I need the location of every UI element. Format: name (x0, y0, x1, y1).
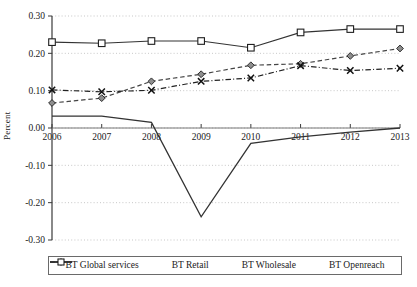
y-axis-tick-label: 0.20 (28, 49, 45, 59)
axis-lines (52, 16, 400, 240)
data-point-marker (397, 26, 404, 33)
x-axis-tick-label: 2007 (92, 132, 111, 142)
data-point-marker (198, 78, 204, 84)
data-point-marker (247, 62, 254, 69)
legend-swatch-solid-square (49, 257, 73, 267)
series-bt-wholesale (49, 62, 403, 95)
legend-label-bt-openreach: BT Openreach (329, 261, 384, 271)
data-point-marker (198, 38, 205, 45)
data-point-marker (198, 71, 205, 78)
series-bt-openreach (49, 26, 404, 51)
data-point-marker (397, 45, 404, 52)
y-axis-tick-label: 0.30 (28, 11, 45, 21)
y-axis-tick-label: -0.10 (25, 161, 45, 171)
data-series-group (49, 26, 404, 217)
data-point-marker (148, 38, 155, 45)
x-axis-tick-label: 2008 (142, 132, 161, 142)
legend-item-bt-openreach[interactable]: BT Openreach (329, 261, 384, 271)
data-point-marker (98, 95, 105, 102)
y-axis-ticks: 0.300.200.100.00-0.10-0.20-0.30 (25, 11, 52, 245)
data-point-marker (347, 53, 354, 60)
x-axis-tick-label: 2013 (391, 132, 410, 142)
data-point-marker (347, 26, 354, 33)
x-axis-ticks: 20062007200820092010201120122013 (43, 124, 410, 142)
y-axis-tick-label: -0.30 (25, 235, 45, 245)
legend-label-bt-global-services: BT Global services (66, 261, 139, 271)
data-point-marker (297, 29, 304, 36)
data-point-marker (49, 100, 56, 107)
data-point-marker (397, 65, 403, 71)
x-axis-tick-label: 2010 (241, 132, 260, 142)
x-axis-tick-label: 2012 (341, 132, 360, 142)
legend-item-bt-retail[interactable]: BT Retail (172, 261, 209, 271)
series-bt-retail (49, 45, 404, 106)
x-axis-tick-label: 2009 (192, 132, 211, 142)
line-chart-plot: 0.300.200.100.00-0.10-0.20-0.30 20062007… (0, 0, 417, 250)
data-point-marker (148, 78, 155, 85)
data-point-marker (248, 44, 255, 51)
chart-legend: BT Global services BT Retail BT Wholesal… (48, 256, 402, 275)
chart-container: Percent 0.300.200.100.00-0.10-0.20-0.30 … (0, 0, 417, 287)
y-axis-tick-label: 0.10 (28, 86, 45, 96)
data-point-marker (98, 40, 105, 47)
y-axis-tick-label: -0.20 (25, 198, 45, 208)
legend-item-bt-wholesale[interactable]: BT Wholesale (242, 261, 296, 271)
legend-label-bt-wholesale: BT Wholesale (242, 261, 296, 271)
legend-label-bt-retail: BT Retail (172, 261, 209, 271)
data-point-marker (49, 39, 56, 46)
legend-item-bt-global-services[interactable]: BT Global services (66, 261, 139, 271)
